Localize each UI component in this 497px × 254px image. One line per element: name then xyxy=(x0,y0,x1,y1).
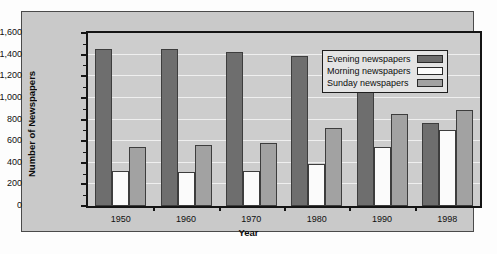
bar xyxy=(95,49,112,206)
legend-item: Evening newspapers xyxy=(327,53,443,65)
bar xyxy=(325,128,342,206)
chart-legend: Evening newspapersMorning newspapersSund… xyxy=(322,50,448,93)
legend-item-swatch xyxy=(417,79,443,87)
bar xyxy=(161,49,178,206)
bar xyxy=(260,143,277,206)
bar xyxy=(291,56,308,206)
y-axis-tick-label: 1,400 xyxy=(0,50,22,59)
bar xyxy=(195,145,212,206)
bar xyxy=(226,52,243,206)
bar xyxy=(456,110,473,206)
legend-item-swatch xyxy=(417,55,443,63)
x-axis-tick-label: 1970 xyxy=(221,214,281,224)
legend-item-label: Morning newspapers xyxy=(327,66,417,76)
bar xyxy=(391,114,408,206)
y-axis-tick-label: 1,200 xyxy=(0,71,22,80)
gridline xyxy=(88,97,480,98)
legend-item: Morning newspapers xyxy=(327,65,443,77)
bar xyxy=(308,164,325,206)
x-axis-tick xyxy=(219,206,221,211)
chart-panel: Number of Newspapers 02004006008001,0001… xyxy=(21,11,474,232)
x-axis-title: Year xyxy=(22,227,475,238)
x-axis-tick-label: 1960 xyxy=(156,214,216,224)
x-axis-tick-label: 1990 xyxy=(352,214,412,224)
bar xyxy=(357,89,374,206)
bar xyxy=(374,147,391,206)
y-axis-tick-label: 0 xyxy=(0,201,22,210)
bar xyxy=(243,171,260,206)
legend-item-label: Evening newspapers xyxy=(327,54,417,64)
legend-item: Sunday newspapers xyxy=(327,77,443,89)
legend-item-swatch xyxy=(417,67,443,75)
y-axis-tick-label: 400 xyxy=(0,158,22,167)
y-axis-tick-label: 1,000 xyxy=(0,93,22,102)
bar xyxy=(422,123,439,206)
gridline xyxy=(88,119,480,120)
bar xyxy=(112,171,129,206)
bar xyxy=(129,147,146,206)
x-axis-tick-label: 1980 xyxy=(287,214,347,224)
x-axis-tick-label: 1950 xyxy=(91,214,151,224)
legend-item-label: Sunday newspapers xyxy=(327,78,415,88)
x-axis-tick xyxy=(284,206,286,211)
x-axis-tick xyxy=(153,206,155,211)
y-axis-title: Number of Newspapers xyxy=(26,64,40,184)
bar xyxy=(439,130,456,206)
y-axis-tick-label: 800 xyxy=(0,115,22,124)
bar-chart-figure: Number of Newspapers 02004006008001,0001… xyxy=(0,0,497,254)
y-axis-tick-label: 600 xyxy=(0,136,22,145)
y-axis-tick-label: 200 xyxy=(0,179,22,188)
bar xyxy=(178,172,195,206)
x-axis-tick xyxy=(349,206,351,211)
x-axis-tick-label: 1998 xyxy=(417,214,477,224)
y-axis-tick-label: 1,600 xyxy=(0,28,22,37)
x-axis-tick xyxy=(415,206,417,211)
